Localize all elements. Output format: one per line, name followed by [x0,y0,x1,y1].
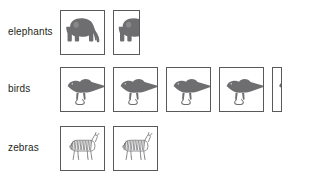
pictograph-row-birds: birds [0,63,290,115]
pictograph-cell [60,67,105,112]
pictograph-cell [219,67,264,112]
row-label-elephants: elephants [0,27,60,37]
pictograph-cell [113,67,158,112]
pictograph-chart: elephants birds zebras [0,0,309,187]
pictograph-cell-partial [113,10,140,55]
pictograph-cell [60,10,105,55]
row-label-zebras: zebras [0,143,60,153]
pictograph-cell [166,67,211,112]
bird-icon [167,68,210,111]
elephant-icon [114,11,140,54]
bird-icon [220,68,263,111]
elephant-icon [61,11,104,54]
pictograph-row-elephants: elephants [0,6,148,58]
row-cells-elephants [60,6,148,58]
pictograph-row-zebras: zebras [0,122,166,174]
row-cells-birds [60,63,290,115]
zebra-icon [114,127,157,170]
pictograph-cell [60,126,105,171]
bird-icon [114,68,157,111]
bird-icon [61,68,104,111]
row-label-birds: birds [0,84,60,94]
pictograph-cell [113,126,158,171]
bird-icon [273,68,282,111]
zebra-icon [61,127,104,170]
row-cells-zebras [60,122,166,174]
pictograph-cell-partial [272,67,282,112]
